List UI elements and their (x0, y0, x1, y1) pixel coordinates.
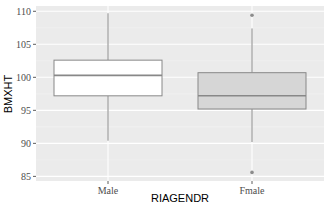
y-tick-label: 110 (16, 6, 31, 17)
y-tick-label: 105 (16, 39, 31, 50)
y-axis-title: BMXHT (2, 74, 14, 113)
outlier-point (250, 171, 254, 175)
y-tick-label: 95 (21, 105, 31, 116)
iqr-box (198, 73, 306, 109)
y-tick-label: 85 (21, 171, 31, 182)
y-axis: 859095100105110 (16, 6, 36, 182)
outlier-point (250, 13, 254, 17)
y-tick-label: 90 (21, 138, 31, 149)
iqr-box (54, 60, 162, 96)
x-tick-label: Male (98, 185, 119, 196)
x-axis-title: RIAGENDR (151, 192, 209, 204)
x-tick-label: Fmale (240, 185, 266, 196)
y-tick-label: 100 (16, 72, 31, 83)
boxplot-chart: 859095100105110 MaleFmale RIAGENDR BMXHT (0, 0, 324, 207)
